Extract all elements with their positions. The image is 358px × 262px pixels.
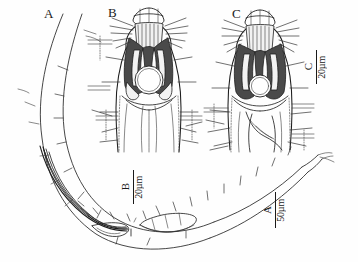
scale-bar-a-letter: A (262, 206, 273, 214)
panel-c-anterior (204, 10, 314, 152)
panel-label-c: C (232, 7, 241, 20)
scale-bar-b-unit: 20µm (134, 176, 146, 199)
panel-label-b: B (108, 6, 117, 19)
panel-label-a: A (44, 7, 53, 20)
scale-bar-b-letter: B (120, 183, 131, 190)
scale-bar-b: B 20µm (120, 170, 146, 204)
figure-plate: A B C C 20µm B 20µm A 50µm (0, 0, 358, 262)
scale-bar-c-rule-group: 20µm (316, 50, 329, 84)
scale-bar-c-unit: 20µm (317, 56, 329, 79)
scale-bar-a-rule-group: 50µm (275, 192, 288, 228)
panel-b-anterior (88, 8, 202, 152)
scale-bar-b-rule-group: 20µm (133, 170, 146, 204)
line-drawing-canvas (0, 0, 358, 262)
scale-bar-c: C 20µm (303, 50, 329, 84)
scale-bar-a: A 50µm (262, 192, 288, 228)
scale-bar-c-letter: C (303, 63, 314, 70)
scale-bar-a-unit: 50µm (276, 199, 288, 222)
